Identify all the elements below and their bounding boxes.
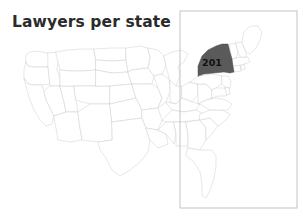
state-maine — [242, 26, 262, 54]
state-florida — [186, 148, 216, 198]
state-outlines — [24, 26, 262, 198]
state-wisconsin — [148, 48, 166, 76]
state-new-jersey — [222, 76, 231, 88]
state-new-mexico — [78, 104, 112, 142]
us-choropleth-map: 201 — [0, 0, 303, 216]
state-colorado — [74, 86, 110, 104]
state-north-dakota — [94, 48, 126, 61]
state-alabama — [174, 122, 188, 146]
state-montana — [56, 49, 96, 71]
state-wyoming — [60, 70, 96, 86]
state-georgia — [186, 120, 206, 150]
map-figure: Lawyers per state — [0, 0, 303, 216]
inset-frame — [180, 11, 297, 208]
state-washington — [26, 51, 50, 67]
highlight-value-label: 201 — [202, 57, 222, 68]
state-arizona — [54, 112, 82, 142]
